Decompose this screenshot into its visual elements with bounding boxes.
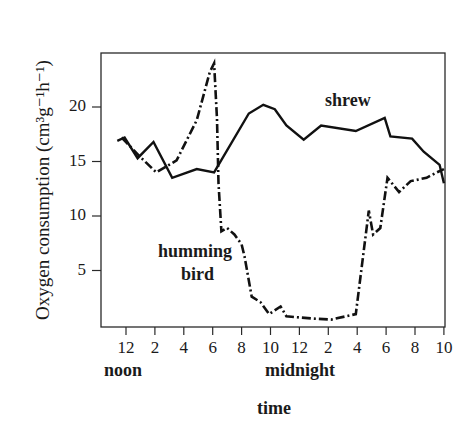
y-tick-label: 20 [56,96,86,116]
x-axis-ticks [126,327,444,335]
y-tick-label: 5 [56,260,86,280]
shrew-annotation: shrew [325,90,371,111]
x-tick-label: 2 [151,338,160,358]
x-tick-label: 12 [291,338,308,358]
x-tick-label: 4 [353,338,362,358]
x-tick-label: 8 [411,338,420,358]
x-tick-label: 8 [237,338,246,358]
hummingbird-annotation-line2: bird [181,264,214,285]
plot-frame [101,53,445,327]
x-tick-label: 2 [324,338,333,358]
hummingbird-annotation-line1: humming [158,241,232,262]
x-tick-label: 6 [208,338,217,358]
midnight-label: midnight [265,360,335,381]
x-tick-label: 4 [180,338,189,358]
y-tick-label: 15 [56,151,86,171]
x-tick-label: 6 [382,338,391,358]
shrew-series-line [117,105,444,184]
y-axis-ticks [92,107,101,271]
noon-label: noon [104,360,142,381]
x-tick-label: 10 [435,338,452,358]
y-axis-title-text: Oxygen consumption (cm³g⁻¹h⁻¹) [31,60,54,320]
hummingbird-series-line [122,63,444,319]
x-tick-label: 12 [118,338,135,358]
y-tick-label: 10 [56,205,86,225]
x-tick-label: 10 [262,338,279,358]
x-axis-title: time [257,398,291,419]
